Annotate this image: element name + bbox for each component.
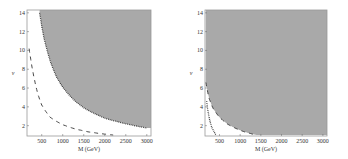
excluded-region: [206, 10, 327, 135]
left-plot: 500100015002000250030002468101214M (GeV)…: [0, 0, 174, 159]
y-tick-label: 12: [19, 29, 25, 35]
x-axis-label: M (GeV): [255, 146, 277, 153]
y-axis-label: ν: [12, 70, 15, 76]
x-tick-label: 2500: [120, 138, 132, 144]
y-tick-label: 6: [200, 85, 203, 91]
x-tick-label: 2000: [99, 138, 111, 144]
y-tick-label: 2: [22, 123, 25, 129]
y-tick-label: 8: [200, 66, 203, 72]
x-tick-label: 3000: [141, 138, 153, 144]
y-tick-label: 14: [19, 10, 25, 16]
x-tick-label: 2500: [296, 138, 308, 144]
y-tick-label: 14: [197, 10, 203, 16]
x-axis-label: M (GeV): [78, 146, 100, 153]
y-tick-label: 4: [22, 104, 25, 110]
x-tick-label: 1000: [234, 138, 246, 144]
left-plot-svg: 500100015002000250030002468101214M (GeV)…: [0, 0, 174, 159]
x-tick-label: 1500: [78, 138, 90, 144]
right-plot: 500100015002000250030002468101214M (GeV)…: [174, 0, 348, 159]
right-plot-svg: 500100015002000250030002468101214M (GeV)…: [174, 0, 348, 159]
y-tick-label: 10: [19, 47, 25, 53]
excluded-region: [40, 10, 151, 128]
x-tick-label: 1000: [57, 138, 69, 144]
x-tick-label: 3000: [317, 138, 329, 144]
y-tick-label: 8: [22, 66, 25, 72]
x-tick-label: 2000: [276, 138, 288, 144]
y-tick-label: 12: [197, 29, 203, 35]
y-tick-label: 2: [200, 123, 203, 129]
x-tick-label: 1500: [255, 138, 267, 144]
y-tick-label: 6: [22, 85, 25, 91]
x-tick-label: 500: [37, 138, 46, 144]
y-tick-label: 4: [200, 104, 203, 110]
y-axis-label: ν: [190, 70, 193, 76]
y-tick-label: 10: [197, 47, 203, 53]
x-tick-label: 500: [215, 138, 224, 144]
